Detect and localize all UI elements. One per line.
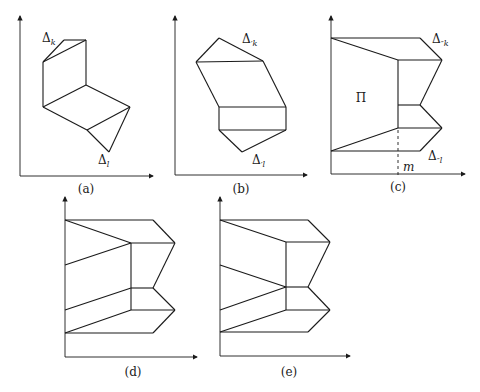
caption-b: (b): [232, 182, 249, 196]
panel-a: Δk Δl (a): [20, 16, 153, 196]
delta-l-prime-label: Δ′l: [252, 153, 265, 169]
delta-k-prime-label: Δ′k: [242, 32, 257, 48]
panel-e: (e): [220, 197, 350, 379]
polytope-d: [65, 220, 175, 333]
caption-a: (a): [78, 182, 95, 196]
pi-region-label: Π: [356, 91, 366, 105]
delta-l-label: Δl: [98, 153, 110, 169]
polytope-b: [196, 38, 286, 152]
caption-d: (d): [124, 365, 141, 379]
delta-k-label: Δk: [42, 31, 56, 47]
delta-l-double-prime-label: Δ″l: [428, 149, 443, 165]
figure: Δk Δl (a) Δ′k Δ′l (b): [0, 0, 480, 392]
polytope-c: [331, 38, 442, 151]
polytope-e: [220, 220, 330, 332]
panel-c: Π m Δ″k Δ″l (c): [331, 16, 465, 194]
delta-k-double-prime-label: Δ″k: [432, 32, 449, 48]
polytope-a: [43, 40, 130, 152]
panel-d: (d): [65, 197, 197, 379]
caption-c: (c): [390, 180, 406, 194]
caption-e: (e): [281, 365, 297, 379]
panel-b: Δ′k Δ′l (b): [175, 16, 307, 196]
m-label: m: [403, 160, 414, 174]
